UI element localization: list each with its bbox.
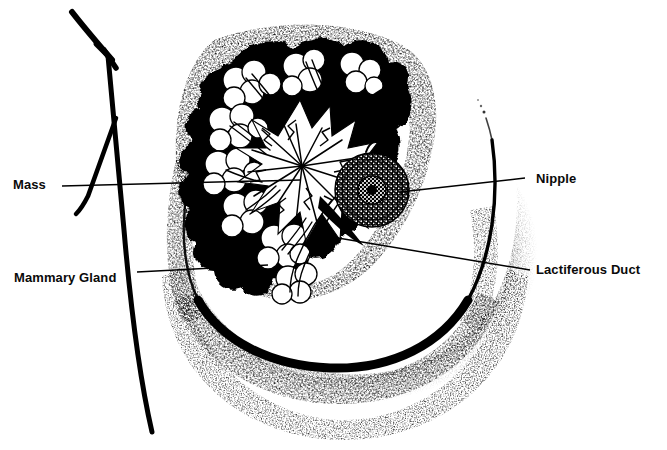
label-lactiferous-duct: Lactiferous Duct bbox=[536, 263, 640, 276]
label-nipple: Nipple bbox=[536, 172, 576, 185]
label-mammary-gland: Mammary Gland bbox=[14, 271, 116, 284]
breast-anatomy-figure: Mass Mammary Gland Nipple Lactiferous Du… bbox=[0, 0, 667, 450]
label-mass: Mass bbox=[13, 178, 46, 191]
anatomy-illustration bbox=[0, 0, 667, 450]
